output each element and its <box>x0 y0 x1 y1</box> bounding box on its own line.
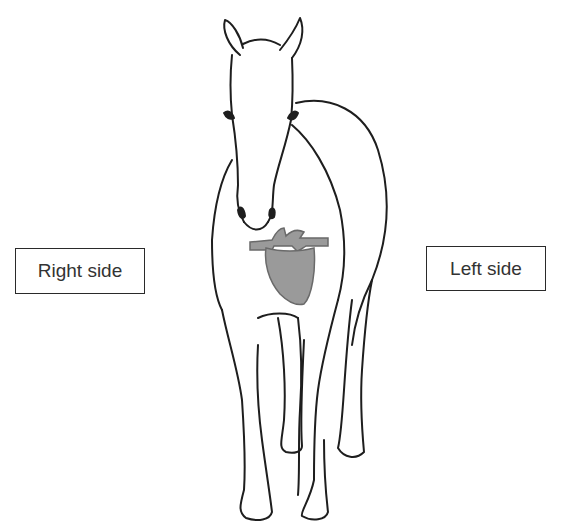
right-side-text: Right side <box>38 260 123 282</box>
heart-aorta <box>250 228 328 251</box>
left-side-text: Left side <box>450 258 522 280</box>
right-side-label: Right side <box>15 248 145 294</box>
heart-body <box>266 248 315 305</box>
left-side-label: Left side <box>426 246 546 291</box>
